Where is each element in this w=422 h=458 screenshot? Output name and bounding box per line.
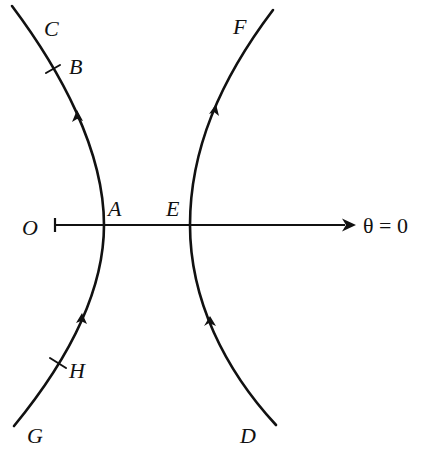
label-e: E [165,196,180,221]
label-o: O [22,215,38,240]
label-theta-zero: θ = 0 [363,213,408,238]
label-d: D [239,423,256,448]
right-branch-curve [190,10,276,425]
label-a: A [106,196,122,221]
left-upper-direction-arrow-icon [72,110,83,122]
label-b: B [69,54,82,79]
right-branch [190,10,276,425]
orbit-diagram: C B F O A E θ = 0 H G D [0,0,422,458]
label-g: G [27,423,43,448]
label-c: C [44,16,59,41]
right-upper-direction-arrow-icon [209,104,219,116]
label-f: F [232,14,247,39]
label-h: H [68,358,86,383]
polar-axis [55,218,356,232]
